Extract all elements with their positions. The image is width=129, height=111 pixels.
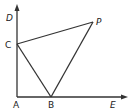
arrowhead-up-icon xyxy=(15,4,20,11)
label-P: P xyxy=(96,17,102,27)
label-B: B xyxy=(48,100,54,110)
label-E: E xyxy=(110,100,116,110)
label-C: C xyxy=(5,40,11,50)
segment-CB xyxy=(17,44,51,97)
geometry-diagram: D C P A B E xyxy=(0,0,129,111)
segment-CP xyxy=(17,22,93,44)
label-D: D xyxy=(6,13,13,23)
segment-BP xyxy=(51,22,93,97)
label-A: A xyxy=(13,100,20,110)
arrowhead-right-icon xyxy=(121,95,128,100)
